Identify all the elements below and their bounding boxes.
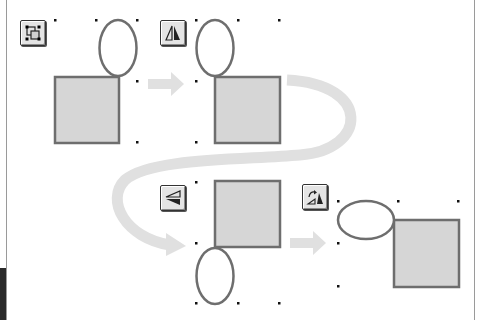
ellipse-shape xyxy=(338,201,394,239)
arrow-step1-to-step2 xyxy=(148,72,184,96)
group-button[interactable] xyxy=(20,20,46,46)
flip-horizontal-icon xyxy=(164,24,182,42)
stage-3-flip-vertical xyxy=(195,181,281,305)
flip-vertical-button[interactable] xyxy=(160,185,186,211)
group-selection-icon xyxy=(24,24,42,42)
square-shape xyxy=(394,220,459,287)
flip-horizontal-button[interactable] xyxy=(160,20,186,46)
ellipse-shape xyxy=(197,20,234,76)
stage-4-rotate xyxy=(337,200,460,288)
square-shape xyxy=(215,181,280,247)
stage-2-flip-horizontal xyxy=(195,19,281,144)
rotate-icon xyxy=(306,188,324,206)
ellipse-shape xyxy=(100,20,137,76)
ellipse-shape xyxy=(197,248,234,304)
rotate-button[interactable] xyxy=(302,184,328,210)
diagram-canvas xyxy=(0,0,479,320)
arrow-step3-to-step4 xyxy=(290,231,326,255)
flip-vertical-icon xyxy=(164,189,182,207)
stage-1-group xyxy=(54,19,139,144)
square-shape xyxy=(215,77,280,143)
square-shape xyxy=(55,77,119,143)
